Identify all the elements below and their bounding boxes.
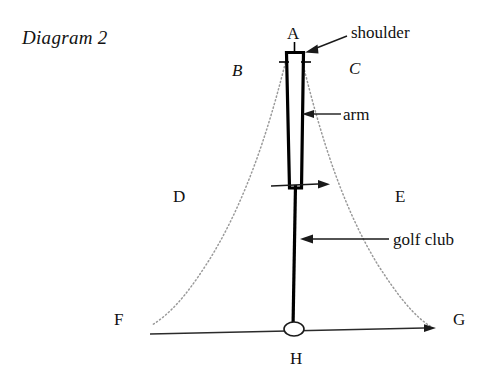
label-point-g: G — [453, 311, 465, 328]
label-point-h: H — [290, 350, 302, 367]
swing-direction-arrow-line — [271, 184, 318, 186]
label-region-b: B — [232, 62, 242, 79]
label-region-c: C — [349, 60, 360, 77]
shoulder-callout-line — [314, 36, 347, 49]
golf-club-callout-arrowhead — [300, 235, 313, 244]
club-shaft — [293, 185, 296, 328]
diagram-canvas: Diagram 2 A F G H B C D E shoulder arm g… — [0, 0, 493, 386]
torso-rectangle — [287, 53, 304, 189]
callout-label-shoulder: shoulder — [351, 24, 410, 41]
label-point-f: F — [114, 311, 123, 328]
shoulder-callout-arrowhead — [305, 45, 319, 54]
swing-direction-arrowhead — [318, 180, 330, 189]
page-title: Diagram 2 — [22, 28, 108, 47]
golf-swing-figure — [0, 0, 493, 386]
label-region-e: E — [395, 188, 405, 205]
swing-arc-right-dotted — [300, 52, 430, 326]
label-region-d: D — [173, 188, 185, 205]
label-point-a: A — [287, 25, 299, 42]
callout-label-golf-club: golf club — [393, 231, 454, 248]
golf-ball — [284, 322, 304, 336]
callout-label-arm: arm — [343, 106, 369, 123]
